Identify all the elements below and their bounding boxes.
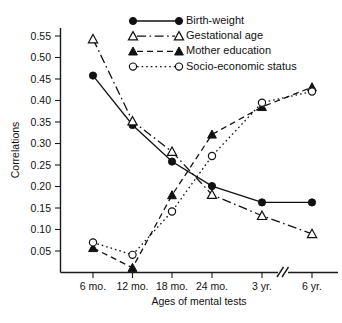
legend-marker xyxy=(175,17,182,24)
legend-marker xyxy=(175,63,182,70)
x-tick-label: 3 yr. xyxy=(252,280,272,292)
legend-marker xyxy=(128,32,137,40)
data-point-marker xyxy=(208,152,215,159)
data-point-marker xyxy=(167,147,176,155)
legend-item-mother-education[interactable]: Mother education xyxy=(129,44,271,56)
data-point-marker xyxy=(88,34,97,42)
legend-marker xyxy=(175,47,184,55)
legend-marker xyxy=(129,63,136,70)
data-point-marker xyxy=(258,199,265,206)
data-point-marker xyxy=(129,251,136,258)
legend-item-gestational-age[interactable]: Gestational age xyxy=(128,29,263,41)
x-tick-label: 12 mo. xyxy=(116,280,148,292)
legend-label: Birth-weight xyxy=(186,14,244,26)
data-point-marker xyxy=(168,191,177,199)
y-axis-ticks: 0.050.100.150.200.250.300.350.400.450.50… xyxy=(31,30,61,257)
x-tick-label: 6 mo. xyxy=(80,280,106,292)
chart-legend: Birth-weightGestational ageMother educat… xyxy=(128,14,297,72)
y-tick-label: 0.40 xyxy=(31,94,52,106)
legend-label: Mother education xyxy=(186,44,271,56)
y-tick-label: 0.15 xyxy=(31,202,52,214)
data-point-marker xyxy=(208,182,215,189)
data-point-marker xyxy=(128,263,137,271)
y-tick-label: 0.10 xyxy=(31,223,52,235)
legend-marker xyxy=(129,47,138,55)
legend-item-birth-weight[interactable]: Birth-weight xyxy=(129,14,244,26)
y-tick-label: 0.45 xyxy=(31,73,52,85)
x-tick-label: 24 mo. xyxy=(196,280,228,292)
y-axis-title: Correlations xyxy=(9,122,21,179)
series-birth-weight xyxy=(89,72,315,206)
y-tick-label: 0.30 xyxy=(31,137,52,149)
chart-figure: 0.050.100.150.200.250.300.350.400.450.50… xyxy=(0,0,342,323)
data-point-marker xyxy=(168,208,175,215)
data-point-marker xyxy=(257,211,266,219)
y-tick-label: 0.50 xyxy=(31,51,52,63)
data-point-marker xyxy=(308,199,315,206)
legend-label: Gestational age xyxy=(186,29,263,41)
x-axis-title: Ages of mental tests xyxy=(151,295,246,307)
legend-marker xyxy=(129,17,136,24)
series-mother-education xyxy=(89,83,317,272)
series-line xyxy=(93,76,312,203)
legend-marker xyxy=(174,32,183,40)
y-tick-label: 0.25 xyxy=(31,159,52,171)
data-point-marker xyxy=(258,99,265,106)
x-axis-ticks: 6 mo.12 mo.18 mo.24 mo.3 yr.6 yr. xyxy=(80,273,322,292)
x-tick-label: 18 mo. xyxy=(156,280,188,292)
y-tick-label: 0.35 xyxy=(31,116,52,128)
y-tick-label: 0.05 xyxy=(31,245,52,257)
legend-item-socio-economic-status[interactable]: Socio-economic status xyxy=(129,60,297,72)
data-point-marker xyxy=(89,239,96,246)
data-point-marker xyxy=(168,158,175,165)
y-tick-label: 0.55 xyxy=(31,30,52,42)
legend-label: Socio-economic status xyxy=(186,60,297,72)
data-point-marker xyxy=(308,88,315,95)
y-tick-label: 0.20 xyxy=(31,180,52,192)
correlations-line-chart: 0.050.100.150.200.250.300.350.400.450.50… xyxy=(0,0,342,323)
series-line xyxy=(93,87,312,268)
data-point-marker xyxy=(307,229,316,237)
data-point-marker xyxy=(89,72,96,79)
data-point-marker xyxy=(208,130,217,138)
x-tick-label: 6 yr. xyxy=(302,280,322,292)
